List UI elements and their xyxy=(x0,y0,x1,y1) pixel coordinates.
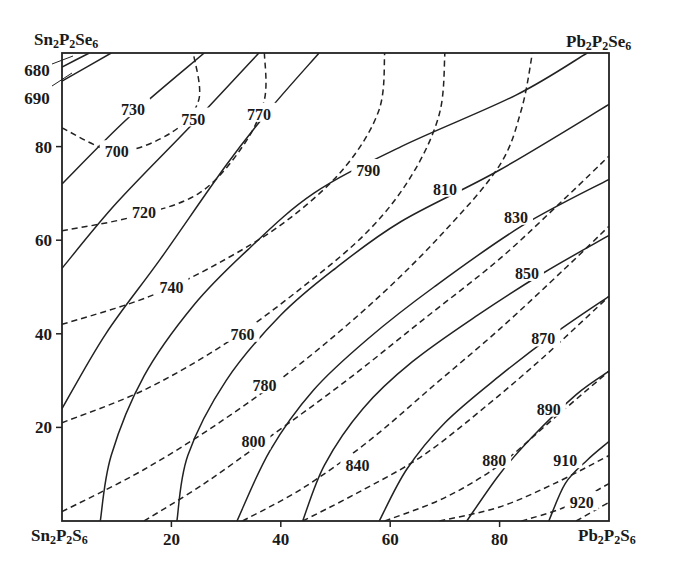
dashed-isotherm-720 xyxy=(62,53,266,231)
isotherm-label-690: 690 xyxy=(24,89,50,108)
isotherm-label-830: 830 xyxy=(504,209,528,226)
solid-isotherm-830 xyxy=(237,179,609,521)
isotherm-label-780: 780 xyxy=(252,377,276,394)
isotherm-label-720: 720 xyxy=(132,204,156,221)
isotherm-label-740: 740 xyxy=(159,279,183,296)
solid-isotherm-810 xyxy=(177,105,609,522)
solid-isotherm-870 xyxy=(379,296,609,521)
isotherm-label-870: 870 xyxy=(531,330,555,347)
isotherm-label-920: 920 xyxy=(570,494,594,511)
isotherm-label-810: 810 xyxy=(433,181,457,198)
isotherm-label-700: 700 xyxy=(105,143,129,160)
isotherm-label-890: 890 xyxy=(537,401,561,418)
y-tick-label: 60 xyxy=(35,231,52,250)
isotherm-label-840: 840 xyxy=(345,457,369,474)
isotherm-curves xyxy=(62,53,609,521)
x-tick-label: 40 xyxy=(272,530,289,549)
corner-label-bottom-left: Sn2P2S6 xyxy=(31,526,88,547)
corner-label-top-left: Sn2P2Se6 xyxy=(34,30,98,51)
isotherm-label-910: 910 xyxy=(553,452,577,469)
isotherm-label-800: 800 xyxy=(241,433,265,450)
isotherm-label-730: 730 xyxy=(121,101,145,118)
solid-isotherm-680 xyxy=(62,53,89,67)
isotherm-label-760: 760 xyxy=(231,326,255,343)
isotherm-label-790: 790 xyxy=(356,162,380,179)
isotherm-label-770: 770 xyxy=(247,106,271,123)
x-tick-label: 60 xyxy=(382,530,399,549)
isotherm-label-680: 680 xyxy=(24,61,50,80)
solid-isotherm-850 xyxy=(303,236,609,522)
isotherm-contour-chart: 2040608020406080 68069070072073074075076… xyxy=(0,0,677,579)
isotherm-labels: 6806907007207307407507607707807908008108… xyxy=(24,61,598,511)
corner-label-bottom-right: Pb2P2S6 xyxy=(578,526,636,547)
y-tick-label: 80 xyxy=(35,138,52,157)
corner-label-top-right: Pb2P2Se6 xyxy=(566,32,631,53)
dashed-isotherm-780 xyxy=(62,53,532,512)
dashed-isotherm-820 xyxy=(243,226,610,521)
x-tick-label: 20 xyxy=(163,530,180,549)
solid-isotherm-770 xyxy=(62,53,319,409)
y-tick-label: 20 xyxy=(35,418,52,437)
isotherm-label-880: 880 xyxy=(482,452,506,469)
y-tick-label: 40 xyxy=(35,325,52,344)
isotherm-label-750: 750 xyxy=(181,111,205,128)
x-tick-label: 80 xyxy=(491,530,508,549)
plot-frame xyxy=(62,53,609,521)
dashed-isotherm-740 xyxy=(62,53,385,324)
isotherm-label-850: 850 xyxy=(515,265,539,282)
